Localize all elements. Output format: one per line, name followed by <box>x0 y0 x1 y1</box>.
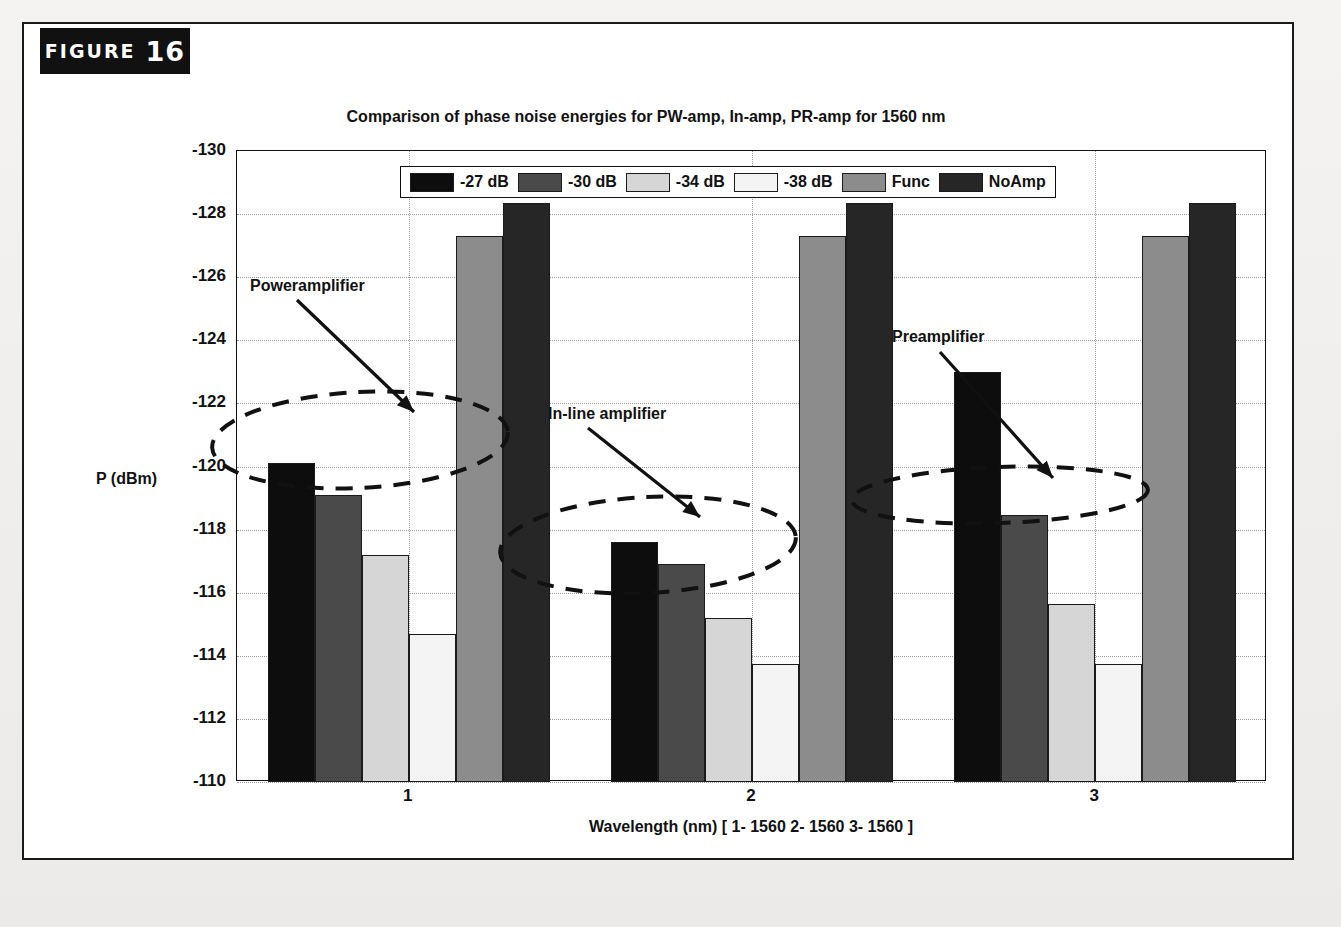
x-axis-tick-label: 1 <box>378 786 438 806</box>
bar <box>315 495 362 782</box>
y-axis-tick-label: -110 <box>162 771 226 791</box>
y-axis-tick-label: -116 <box>162 582 226 602</box>
legend-label: -27 dB <box>460 173 509 191</box>
legend-swatch <box>410 173 454 192</box>
chart-title: Comparison of phase noise energies for P… <box>236 108 1056 126</box>
bar <box>611 542 658 782</box>
bar <box>846 203 893 782</box>
bar <box>954 372 1001 782</box>
y-axis-tick-label: -112 <box>162 708 226 728</box>
legend-entry[interactable]: -34 dB <box>626 173 725 192</box>
bar <box>1142 236 1189 782</box>
y-axis-tick-labels: -130-128-126-124-122-120-118-116-114-112… <box>160 150 226 781</box>
grid-line-horizontal <box>237 214 1265 215</box>
bar <box>1189 203 1236 782</box>
bar <box>268 463 315 782</box>
legend-swatch <box>842 173 886 192</box>
legend-entry[interactable]: -27 dB <box>410 173 509 192</box>
x-axis-label: Wavelength (nm) [ 1- 1560 2- 1560 3- 156… <box>236 818 1266 836</box>
bar <box>799 236 846 782</box>
bar <box>705 618 752 782</box>
bar <box>658 564 705 782</box>
legend-swatch <box>939 173 983 192</box>
x-axis-tick-label: 3 <box>1064 786 1124 806</box>
bar <box>752 664 799 782</box>
legend-label: NoAmp <box>989 173 1046 191</box>
bar <box>503 203 550 782</box>
legend-swatch <box>626 173 670 192</box>
chart: Comparison of phase noise energies for P… <box>0 0 1341 927</box>
y-axis-tick-label: -114 <box>162 645 226 665</box>
bar <box>1095 664 1142 782</box>
y-axis-tick-label: -122 <box>162 392 226 412</box>
legend-entry[interactable]: NoAmp <box>939 173 1046 192</box>
x-axis-tick-label: 2 <box>721 786 781 806</box>
legend-label: -34 dB <box>676 173 725 191</box>
legend-label: -30 dB <box>568 173 617 191</box>
grid-line-horizontal <box>237 530 1265 531</box>
grid-line-horizontal <box>237 277 1265 278</box>
grid-line-horizontal <box>237 782 1265 783</box>
chart-legend: -27 dB-30 dB-34 dB-38 dBFuncNoAmp <box>400 166 1056 198</box>
bar <box>1001 515 1048 782</box>
legend-label: -38 dB <box>784 173 833 191</box>
annotation-label: In-line amplifier <box>548 405 666 423</box>
y-axis-tick-label: -120 <box>162 456 226 476</box>
legend-swatch <box>518 173 562 192</box>
annotation-label: Preamplifier <box>892 328 984 346</box>
legend-entry[interactable]: Func <box>842 173 930 192</box>
page-background: FIGURE 16 Comparison of phase noise ener… <box>0 0 1341 927</box>
grid-line-horizontal <box>237 467 1265 468</box>
y-axis-tick-label: -130 <box>162 140 226 160</box>
legend-label: Func <box>892 173 930 191</box>
y-axis-tick-label: -128 <box>162 203 226 223</box>
y-axis-tick-label: -124 <box>162 329 226 349</box>
plot-area <box>236 150 1266 781</box>
legend-swatch <box>734 173 778 192</box>
bar <box>456 236 503 782</box>
y-axis-tick-label: -118 <box>162 519 226 539</box>
legend-entry[interactable]: -30 dB <box>518 173 617 192</box>
legend-entry[interactable]: -38 dB <box>734 173 833 192</box>
grid-line-horizontal <box>237 340 1265 341</box>
bar <box>362 555 409 782</box>
bar <box>1048 604 1095 782</box>
bar <box>409 634 456 782</box>
annotation-label: Poweramplifier <box>250 277 365 295</box>
grid-line-horizontal <box>237 403 1265 404</box>
y-axis-tick-label: -126 <box>162 266 226 286</box>
